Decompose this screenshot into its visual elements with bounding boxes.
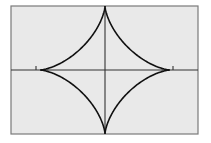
- astroid-plot: [0, 0, 211, 143]
